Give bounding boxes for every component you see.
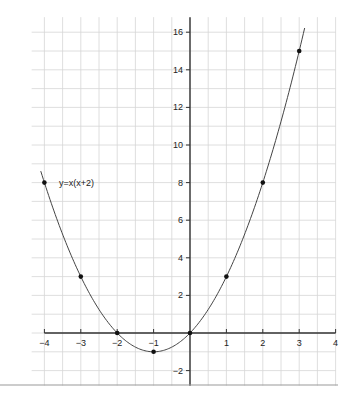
data-point [79,274,84,279]
equation-label: y=x(x+2) [59,178,94,188]
x-tick-label: −2 [112,338,122,348]
y-tick-label: 14 [173,65,183,75]
x-tick-label: −3 [76,338,86,348]
data-point [42,180,47,185]
data-point [188,331,193,336]
function-curve [41,28,305,352]
data-point [151,350,156,355]
x-tick-label: 3 [297,338,302,348]
x-tick-label: −4 [39,338,49,348]
data-point [224,274,229,279]
x-tick-label: 1 [224,338,229,348]
x-tick-label: 4 [333,338,338,348]
data-point [297,49,302,54]
y-tick-label: 8 [178,178,183,188]
y-tick-label: 4 [178,253,183,263]
data-point [115,331,120,336]
data-point [261,180,266,185]
y-tick-label: 16 [173,27,183,37]
parabola-chart: −4−3−2−11234−2246810121416 y=x(x+2) [0,0,351,409]
x-tick-label: 2 [260,338,265,348]
y-tick-label: 10 [173,140,183,150]
x-tick-label: −1 [148,338,158,348]
y-tick-label: 2 [178,290,183,300]
grid-lines [32,17,336,385]
y-tick-label: 12 [173,102,183,112]
y-tick-label: −2 [173,366,183,376]
y-tick-label: 6 [178,215,183,225]
parabola-curve [41,28,305,352]
